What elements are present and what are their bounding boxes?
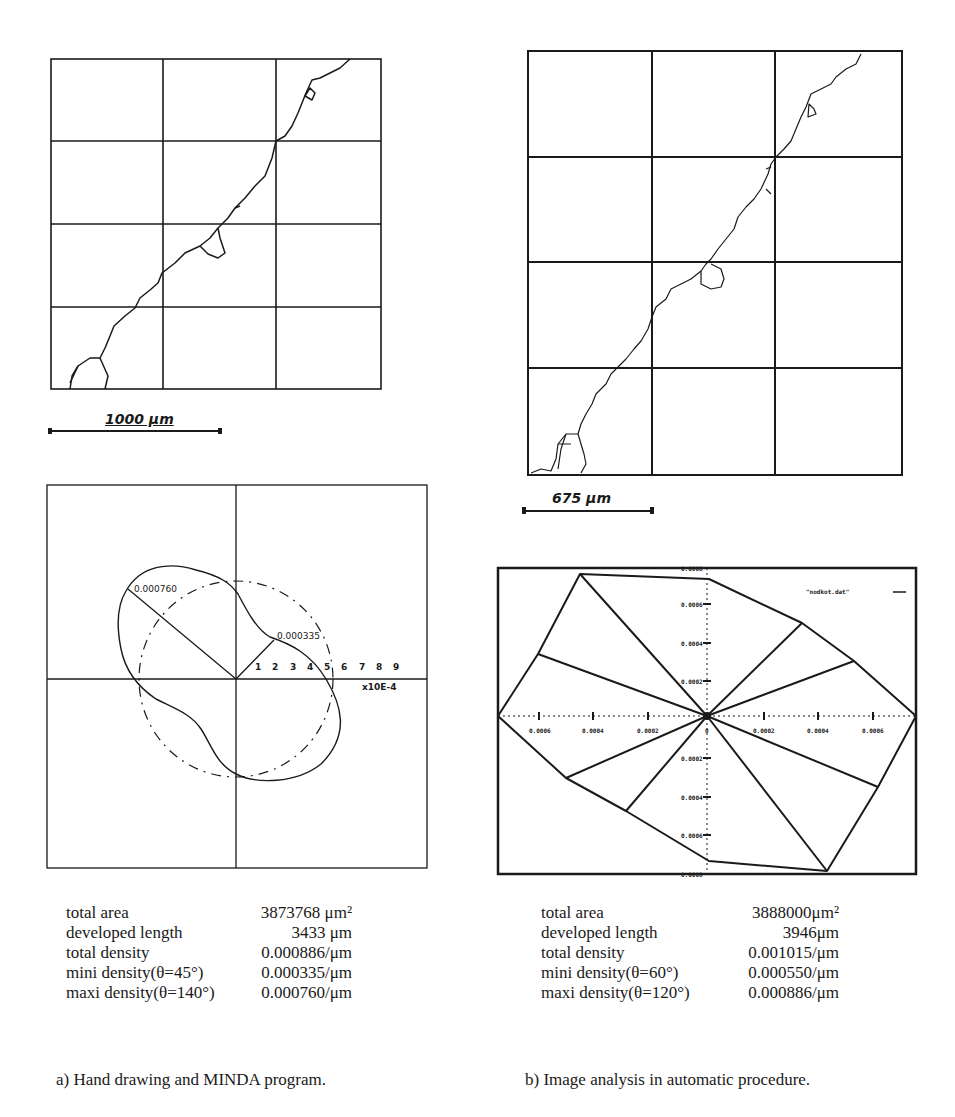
- y-tick-label: 0.0002: [681, 678, 703, 685]
- scale-bar-label: 675 μm: [552, 490, 611, 506]
- axis-unit-label: x10E-4: [362, 682, 396, 692]
- scale-bar-a: 1000 μm: [50, 405, 222, 435]
- x-tick-label: 0.0004: [582, 727, 604, 734]
- stats-table-a: total area3873768 μm² developed length34…: [66, 903, 352, 1003]
- y-tick-label: 0.0002: [681, 755, 703, 762]
- x-tick-label: 0.0002: [637, 727, 659, 734]
- stat-row: total density0.000886/μm: [66, 943, 352, 963]
- legend-label: "nodkot.dat": [806, 588, 849, 595]
- panel-a: 1000 μm 0.000760 0.000335 1 2 3 4 5 6 7 …: [0, 0, 477, 1117]
- x-tick-label: 0.0002: [753, 727, 775, 734]
- y-tick-label: 0.0006: [681, 601, 703, 608]
- y-tick-label: 0.0004: [681, 640, 703, 647]
- x-tick-label: 0: [705, 727, 709, 734]
- stat-row: developed length3433 μm: [66, 923, 352, 943]
- panel-b: 675 μm: [477, 0, 955, 1117]
- stat-row: maxi density(θ=140°)0.000760/μm: [66, 983, 352, 1003]
- rose-diagram-a: [46, 484, 430, 870]
- crack-map-a: [50, 58, 382, 398]
- min-density-label: 0.000335: [277, 631, 320, 641]
- stat-row: mini density(θ=45°)0.000335/μm: [66, 963, 352, 983]
- min-density-ray: [236, 640, 274, 679]
- crack-map-b: [526, 49, 904, 477]
- stats-table-b: total area3888000μm² developed length394…: [541, 903, 839, 1003]
- x-tick-label: 0.0006: [862, 727, 884, 734]
- stat-row: developed length3946μm: [541, 923, 839, 943]
- x-tick-label: 0.0004: [807, 727, 829, 734]
- stat-row: total density0.001015/μm: [541, 943, 839, 963]
- caption-a: a) Hand drawing and MINDA program.: [56, 1070, 326, 1090]
- x-tick-label: 0.0006: [529, 727, 551, 734]
- stat-row: total area3873768 μm²: [66, 903, 352, 923]
- crack-path-b: [531, 54, 861, 473]
- scale-bar-label: 1000 μm: [105, 411, 174, 427]
- caption-b: b) Image analysis in automatic procedure…: [525, 1070, 810, 1090]
- y-tick-label: 0.0008: [681, 871, 703, 878]
- y-tick-label: 0.0004: [681, 794, 703, 801]
- max-density-label: 0.000760: [134, 584, 177, 594]
- max-density-ray: [128, 589, 236, 679]
- y-tick-label: 0.0008: [681, 565, 703, 572]
- rose-diagram-b: [496, 566, 918, 876]
- stat-row: maxi density(θ=120°)0.000886/μm: [541, 983, 839, 1003]
- scale-bar-b: 675 μm: [524, 488, 654, 518]
- stat-row: total area3888000μm²: [541, 903, 839, 923]
- stat-row: mini density(θ=60°)0.000550/μm: [541, 963, 839, 983]
- y-tick-label: 0.0006: [681, 832, 703, 839]
